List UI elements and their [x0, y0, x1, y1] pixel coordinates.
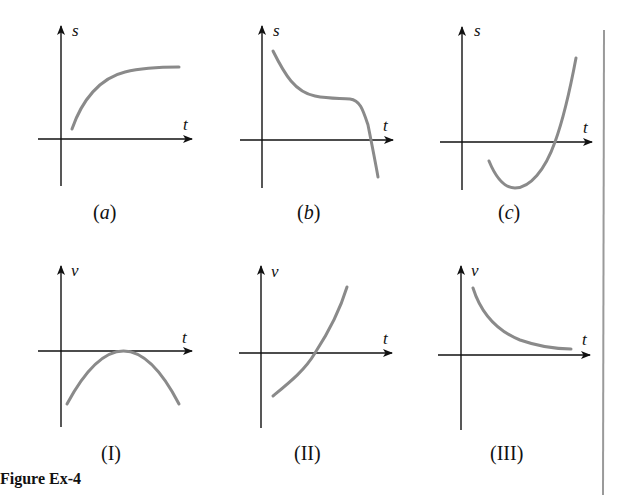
panel-a: s t (a): [38, 21, 192, 224]
panel-I: v t (I): [38, 261, 192, 465]
s-axis-label: s: [72, 21, 79, 40]
v-axis-label: v: [71, 261, 79, 280]
v-axis-label: v: [471, 261, 479, 280]
s-axis-label: s: [474, 21, 481, 40]
figure-caption: Figure Ex-4: [0, 470, 81, 488]
v-curve-III: [473, 288, 571, 349]
t-axis-label: t: [383, 116, 389, 135]
s-curve-a: [72, 67, 179, 129]
panel-label-I: (I): [101, 442, 121, 465]
panel-label-III: (III): [490, 442, 523, 465]
panel-III: v t (III): [438, 261, 590, 465]
s-curve-c: [489, 58, 576, 188]
panel-II: v t (II): [239, 262, 392, 465]
t-axis-label: t: [582, 330, 588, 349]
v-curve-I: [67, 351, 179, 404]
panel-label-b: (b): [297, 201, 320, 224]
figure-ex-4: s t (a) s t (b) s t (c) v t (I) v t (II: [0, 0, 619, 495]
panel-c: s t (c): [440, 21, 592, 224]
t-axis-label: t: [183, 115, 189, 134]
margin-rule: [603, 30, 604, 495]
t-axis-label: t: [182, 328, 188, 347]
panel-label-c: (c): [498, 201, 520, 224]
panel-label-a: (a): [93, 201, 116, 224]
v-curve-II: [273, 287, 347, 396]
t-axis-label: t: [583, 118, 589, 137]
panel-label-II: (II): [294, 442, 321, 465]
s-curve-b: [273, 51, 378, 177]
s-axis-label: s: [273, 21, 280, 40]
t-axis-label: t: [383, 329, 389, 348]
panel-b: s t (b): [240, 21, 393, 224]
v-axis-label: v: [271, 262, 279, 281]
